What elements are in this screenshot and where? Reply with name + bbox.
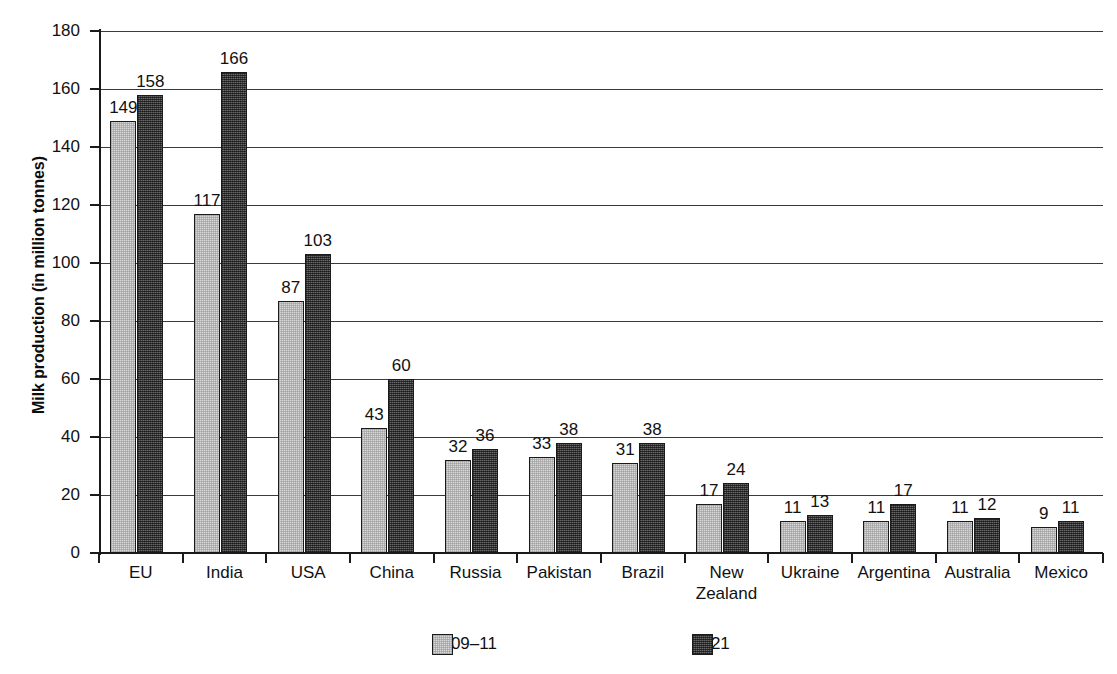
y-axis-label: 180 (26, 21, 80, 41)
x-axis-category-label: China (350, 562, 434, 583)
y-axis-label: 160 (26, 79, 80, 99)
light-gray-swatch (432, 634, 453, 655)
x-axis-category-label: New Zealand (685, 562, 769, 604)
y-axis-tick (90, 378, 99, 380)
bar (278, 301, 304, 553)
bar-value-label: 24 (711, 460, 761, 480)
legend-item[interactable]: 2009–11 (432, 634, 497, 654)
y-axis-label: 140 (26, 137, 80, 157)
bar (305, 254, 331, 553)
bar-value-label: 38 (627, 420, 677, 440)
gridline (99, 321, 1103, 322)
bar (137, 95, 163, 553)
bar (388, 379, 414, 553)
bar-value-label: 17 (878, 481, 928, 501)
x-axis-category-label: Russia (434, 562, 518, 583)
gridline (99, 205, 1103, 206)
bar (194, 214, 220, 553)
gridline (99, 495, 1103, 496)
y-axis-tick (90, 436, 99, 438)
y-axis-tick (90, 204, 99, 206)
bar (556, 443, 582, 553)
x-axis-category-label: Ukraine (768, 562, 852, 583)
y-axis-label: 120 (26, 195, 80, 215)
gridline (99, 89, 1103, 90)
gridline (99, 31, 1103, 32)
bar-value-label: 166 (209, 49, 259, 69)
y-axis-tick (90, 320, 99, 322)
x-axis-category-label: India (183, 562, 267, 583)
bar-value-label: 12 (962, 495, 1012, 515)
x-axis-category-label: Argentina (852, 562, 936, 583)
bar (863, 521, 889, 553)
bar (445, 460, 471, 553)
dark-gray-swatch (692, 634, 713, 655)
bar-value-label: 158 (125, 72, 175, 92)
bar-value-label: 36 (460, 426, 510, 446)
y-axis-label: 60 (26, 369, 80, 389)
bar (221, 72, 247, 553)
bar (807, 515, 833, 553)
y-axis-label: 80 (26, 311, 80, 331)
bar (472, 449, 498, 553)
bar (361, 428, 387, 553)
x-axis-category-label: Australia (936, 562, 1020, 583)
bar (723, 483, 749, 553)
y-axis-tick (90, 146, 99, 148)
bar (780, 521, 806, 553)
bar (696, 504, 722, 553)
gridline (99, 437, 1103, 438)
y-axis-tick (90, 262, 99, 264)
y-axis-label: 20 (26, 485, 80, 505)
bar (529, 457, 555, 553)
bar (1058, 521, 1084, 553)
bar (974, 518, 1000, 553)
bar (639, 443, 665, 553)
bar (947, 521, 973, 553)
bar (1031, 527, 1057, 553)
bar-value-label: 60 (376, 356, 426, 376)
gridline (99, 379, 1103, 380)
legend-item[interactable]: 2021 (692, 634, 730, 654)
bar-value-label: 103 (293, 231, 343, 251)
bar (110, 121, 136, 553)
bar-value-label: 13 (795, 492, 845, 512)
chart-legend: 2009–112021 (0, 631, 1117, 663)
gridline (99, 147, 1103, 148)
y-axis-label: 40 (26, 427, 80, 447)
x-axis-category-label: Brazil (601, 562, 685, 583)
y-axis-label: 100 (26, 253, 80, 273)
y-axis-tick (90, 494, 99, 496)
gridline (99, 263, 1103, 264)
y-axis-tick (90, 30, 99, 32)
bar-value-label: 38 (544, 420, 594, 440)
x-axis-category-label: Mexico (1019, 562, 1103, 583)
x-axis-category-label: EU (99, 562, 183, 583)
bar (612, 463, 638, 553)
x-axis-category-label: USA (266, 562, 350, 583)
milk-production-bar-chart: Milk production (in million tonnes) 0204… (0, 0, 1117, 674)
y-axis-label: 0 (26, 543, 80, 563)
bar-value-label: 11 (1046, 498, 1096, 518)
x-axis-category-label: Pakistan (517, 562, 601, 583)
bar (890, 504, 916, 553)
y-axis-tick (90, 88, 99, 90)
